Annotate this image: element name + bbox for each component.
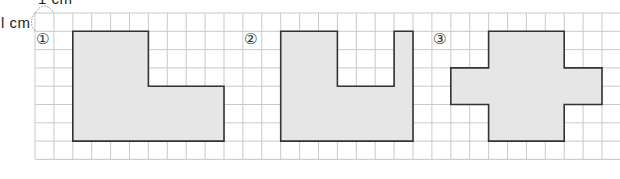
- figure-shape-2: [281, 31, 413, 141]
- unit-bracket-top: [35, 6, 54, 13]
- figure-label-3: ③: [433, 32, 446, 47]
- figure-label-1: ①: [36, 32, 49, 47]
- figure-shape-3: [451, 31, 602, 141]
- unit-bracket-left: [32, 13, 36, 31]
- figure-label-2: ②: [244, 32, 257, 47]
- figure-shape-1: [73, 31, 224, 141]
- grid-diagram: 1 cm l cm ① ② ③: [0, 0, 620, 179]
- unit-label-top: 1 cm: [38, 0, 73, 6]
- graph-paper-grid: [0, 0, 620, 179]
- unit-label-left: l cm: [1, 15, 31, 30]
